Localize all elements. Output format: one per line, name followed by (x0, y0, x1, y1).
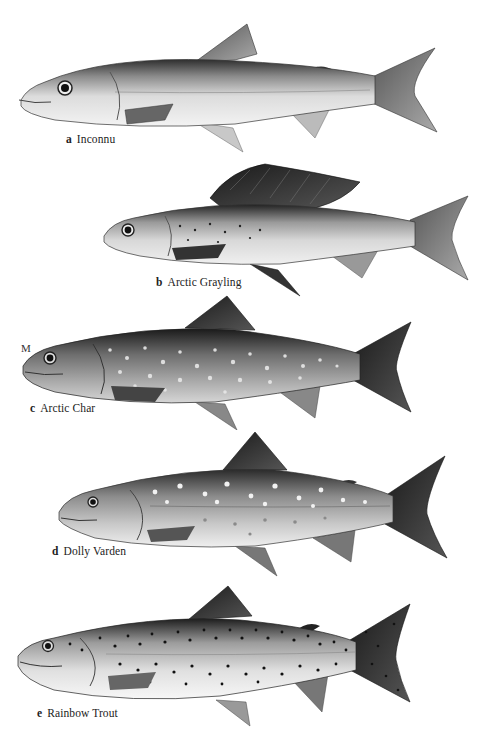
label-arctic-char: cArctic Char (30, 402, 95, 414)
species-name: Rainbow Trout (47, 707, 118, 719)
label-letter: e (37, 707, 42, 719)
label-letter: d (52, 545, 59, 557)
label-dolly-varden: dDolly Varden (52, 545, 126, 557)
fish-plate: aInconnu bArctic Grayling (0, 0, 486, 744)
species-name: Arctic Grayling (168, 276, 242, 288)
label-letter: c (30, 402, 35, 414)
label-rainbow-trout: eRainbow Trout (37, 707, 118, 719)
species-name: Dolly Varden (64, 545, 127, 557)
species-name: Arctic Char (40, 402, 95, 414)
fish-illustration-dolly-varden (55, 430, 455, 580)
label-inconnu: aInconnu (66, 133, 115, 145)
label-letter: b (156, 276, 163, 288)
label-arctic-grayling: bArctic Grayling (156, 276, 242, 288)
species-name: Inconnu (77, 133, 115, 145)
label-letter: a (66, 133, 72, 145)
